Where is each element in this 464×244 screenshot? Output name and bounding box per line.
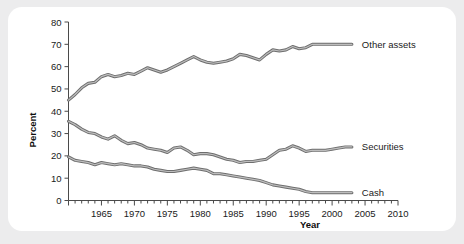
x-tick-label: 2005 [354,208,375,219]
x-tick-label: 2010 [387,208,408,219]
y-tick-label: 0 [56,195,61,206]
series-group [69,44,352,192]
series-line-cash [69,157,352,193]
series-line-other-assets [69,44,352,100]
y-tick-label: 30 [51,128,62,139]
y-tick-label: 40 [51,106,62,117]
x-tick-label: 1965 [91,208,112,219]
y-tick-labels: 01020304050607080 [51,17,62,207]
series-line-securities [69,121,352,162]
series-line-core-cash [69,157,352,193]
series-line-core-securities [69,121,352,162]
y-tick-label: 70 [51,39,62,50]
axis-group [65,22,399,206]
x-tick-labels: 1965197019751980198519901995200020052010 [91,208,409,219]
series-line-core-other-assets [69,44,352,100]
x-tick-label: 2000 [322,208,343,219]
x-minor-tick-marks [69,201,399,206]
x-tick-label: 1975 [157,208,178,219]
x-tick-label: 1970 [124,208,145,219]
y-tick-marks [65,22,69,201]
x-axis-title: Year [300,219,320,230]
y-tick-label: 20 [51,150,62,161]
x-tick-label: 1995 [289,208,310,219]
y-axis-title: Percent [27,112,38,148]
series-label-cash: Cash [362,187,384,198]
chart-plot: 01020304050607080 1965197019751980198519… [0,0,464,244]
y-tick-label: 60 [51,61,62,72]
y-tick-label: 10 [51,173,62,184]
series-label-group: Other assetsSecuritiesCash [362,39,416,198]
x-tick-label: 1985 [223,208,244,219]
y-tick-label: 50 [51,83,62,94]
series-label-other-assets: Other assets [362,39,416,50]
y-tick-label: 80 [51,17,62,28]
x-tick-label: 1980 [190,208,211,219]
figure-root: 01020304050607080 1965197019751980198519… [0,0,464,244]
series-label-securities: Securities [362,141,404,152]
x-tick-label: 1990 [256,208,277,219]
